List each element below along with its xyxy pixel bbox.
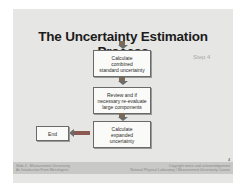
arrow-down-icon (118, 113, 126, 121)
footer-text: An Introduction From Metrologists (16, 168, 70, 172)
box-text: large components (102, 104, 142, 110)
box-text: uncertainty (110, 138, 134, 144)
flow-box-combined-uncertainty: Calculate combined standard uncertainty (93, 50, 151, 77)
footer-left: Slide 4 - Measurement Uncertainty An Int… (16, 164, 70, 172)
step-label: Step 4 (193, 54, 210, 60)
slide-footer: Slide 4 - Measurement Uncertainty An Int… (13, 162, 233, 174)
flow-box-review: Review and if necessary re-evaluate larg… (93, 87, 151, 114)
box-text: End (48, 131, 57, 137)
footer-text: National Physical Laboratory / Measureme… (130, 168, 230, 172)
flow-box-expanded-uncertainty: Calculate expanded uncertainty (93, 121, 151, 148)
arrow-down-icon (118, 41, 126, 49)
footer-right: Copyright notice and acknowledgement Nat… (130, 164, 230, 172)
arrow-left-icon (69, 130, 90, 136)
flow-box-end: End (36, 126, 69, 141)
arrow-down-icon (118, 77, 126, 85)
box-text: standard uncertainty (99, 67, 144, 73)
slide: The Uncertainty Estimation Process Step … (13, 9, 233, 183)
